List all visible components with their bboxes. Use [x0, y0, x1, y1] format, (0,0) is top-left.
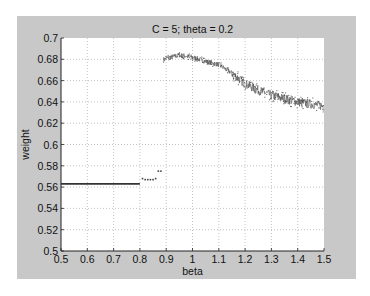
series-high-regime-point — [235, 76, 236, 77]
series-high-regime-point — [312, 97, 313, 98]
series-high-regime-point — [303, 108, 304, 109]
series-high-regime-point — [239, 81, 240, 82]
series-high-regime-point — [234, 80, 235, 81]
series-high-regime-point — [278, 94, 279, 95]
series-high-regime-point — [273, 100, 274, 101]
y-tick-label: 0.64 — [38, 96, 59, 108]
series-high-regime-point — [226, 70, 227, 71]
series-high-regime-point — [170, 59, 171, 60]
series-high-regime-point — [286, 101, 287, 102]
y-tick-label: 0.62 — [38, 117, 59, 129]
series-high-regime-point — [174, 55, 175, 56]
y-tick-label: 0.68 — [38, 53, 59, 65]
series-high-regime-point — [214, 62, 215, 63]
series-high-regime-point — [221, 65, 222, 66]
series-high-regime-point — [318, 107, 319, 108]
series-high-regime-point — [243, 85, 244, 86]
series-high-regime-point — [172, 58, 173, 59]
series-high-regime-point — [250, 82, 251, 83]
series-transition-point — [142, 178, 144, 180]
series-transition-point — [158, 170, 160, 172]
series-high-regime-point — [180, 56, 181, 57]
series-high-regime-point — [262, 89, 263, 90]
y-tick-label: 0.6 — [43, 139, 58, 151]
series-high-regime-point — [238, 71, 239, 72]
series-transition-point — [160, 170, 162, 172]
series-high-regime-point — [212, 66, 213, 67]
series-high-regime-point — [175, 56, 176, 57]
x-tick-label: 0.6 — [80, 253, 95, 265]
series-high-regime-point — [276, 90, 277, 91]
chart-title: C = 5; theta = 0.2 — [152, 23, 233, 35]
series-high-regime-point — [323, 105, 324, 106]
series-high-regime-point — [192, 60, 193, 61]
series-high-regime-point — [290, 106, 291, 107]
series-high-regime-point — [220, 66, 221, 67]
series-high-regime-point — [270, 98, 271, 99]
series-high-regime-point — [181, 57, 182, 58]
series-high-regime-point — [297, 99, 298, 100]
series-high-regime-point — [314, 103, 315, 104]
series-high-regime-point — [217, 63, 218, 64]
series-high-regime-point — [221, 62, 222, 63]
series-high-regime-point — [163, 57, 164, 58]
y-tick-label: 0.66 — [38, 75, 59, 87]
series-transition-point — [147, 179, 149, 181]
series-high-regime-point — [321, 106, 322, 107]
series-high-regime-point — [202, 62, 203, 63]
series-high-regime-point — [274, 99, 275, 100]
series-high-regime-point — [201, 57, 202, 58]
series-high-regime-point — [242, 77, 243, 78]
y-tick-label: 0.54 — [38, 202, 59, 214]
series-high-regime-point — [184, 55, 185, 56]
series-high-regime-point — [269, 99, 270, 100]
series-high-regime-point — [172, 56, 173, 57]
series-high-regime-point — [246, 86, 247, 87]
series-high-regime-point — [254, 86, 255, 87]
series-high-regime-point — [237, 73, 238, 74]
series-high-regime-point — [188, 59, 189, 60]
series-high-regime-point — [238, 84, 239, 85]
series-high-regime-point — [214, 65, 215, 66]
series-high-regime-point — [291, 96, 292, 97]
series-high-regime-point — [209, 63, 210, 64]
series-high-regime-point — [245, 89, 246, 90]
series-high-regime-point — [244, 82, 245, 83]
series-high-regime-point — [288, 95, 289, 96]
series-high-regime-point — [294, 101, 295, 102]
series-high-regime-point — [228, 67, 229, 68]
series-transition-point — [150, 179, 152, 181]
x-tick-label: 1.2 — [238, 253, 253, 265]
y-tick-label: 0.5 — [43, 245, 58, 257]
series-high-regime-point — [237, 78, 238, 79]
series-high-regime-point — [266, 94, 267, 95]
x-axis-label: beta — [182, 265, 203, 277]
series-high-regime-point — [300, 97, 301, 98]
x-tick-label: 1.4 — [290, 253, 305, 265]
series-high-regime-point — [171, 56, 172, 57]
series-high-regime-point — [285, 92, 286, 93]
series-high-regime-point — [233, 79, 234, 80]
series-high-regime-point — [191, 59, 192, 60]
series-transition-point — [152, 179, 154, 181]
series-high-regime-point — [207, 61, 208, 62]
series-high-regime-point — [182, 57, 183, 58]
series-high-regime-point — [264, 88, 265, 89]
series-high-regime-point — [165, 56, 166, 57]
series-high-regime-point — [183, 58, 184, 59]
series-high-regime-point — [306, 102, 307, 103]
series-high-regime-point — [201, 59, 202, 60]
series-high-regime-point — [177, 56, 178, 57]
series-high-regime-point — [228, 70, 229, 71]
x-tick-label: 1 — [190, 253, 196, 265]
series-high-regime-point — [291, 106, 292, 107]
x-tick-label: 0.9 — [159, 253, 174, 265]
series-high-regime-point — [272, 91, 273, 92]
series-high-regime-point — [207, 64, 208, 65]
series-high-regime-point — [275, 97, 276, 98]
x-tick-label: 1.3 — [264, 253, 279, 265]
series-high-regime-point — [284, 95, 285, 96]
series-high-regime-point — [192, 58, 193, 59]
series-high-regime-point — [255, 93, 256, 94]
series-high-regime-point — [254, 91, 255, 92]
